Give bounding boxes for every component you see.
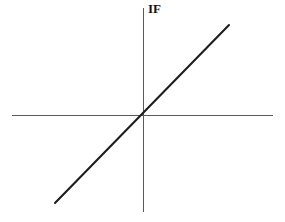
plot-background [0,0,285,222]
plot-svg [0,0,285,222]
figure-canvas: IF [0,0,285,222]
y-axis-label: IF [148,2,161,16]
